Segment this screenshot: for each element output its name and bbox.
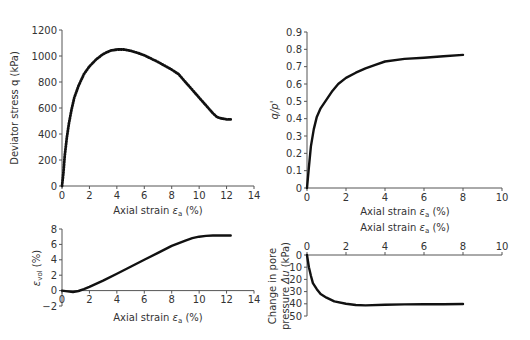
x-tick-label: 14 bbox=[248, 294, 261, 305]
x-tick-label: 8 bbox=[460, 241, 466, 252]
y-tick-label: 0.7 bbox=[286, 61, 302, 72]
y-axis-label-line1: Change in pore bbox=[267, 248, 278, 324]
y-tick-label: 0.2 bbox=[286, 148, 302, 159]
y-axis-label: q/p' bbox=[269, 101, 280, 120]
y-tick-label: 200 bbox=[38, 155, 57, 166]
x-tick-label: 2 bbox=[86, 190, 92, 201]
x-tick-label: 8 bbox=[169, 190, 175, 201]
axes: 02004006008001000120002468101214 bbox=[32, 25, 261, 202]
chart-deviator-stress: 02004006008001000120002468101214 Deviato… bbox=[9, 25, 260, 219]
x-tick-label: 8 bbox=[169, 294, 175, 305]
x-tick-label: 0 bbox=[59, 294, 65, 305]
figure-canvas: 02004006008001000120002468101214 Deviato… bbox=[0, 0, 530, 340]
y-tick-label: 400 bbox=[38, 129, 57, 140]
axes: 00.10.20.30.40.50.60.70.80.90246810 bbox=[286, 27, 508, 204]
x-axis-label: Axial strain εa (%) bbox=[360, 206, 450, 219]
data-series-line bbox=[62, 50, 231, 187]
x-tick-label: 14 bbox=[248, 190, 261, 201]
y-tick-label: −2 bbox=[42, 301, 57, 312]
x-tick-label: 4 bbox=[114, 190, 120, 201]
x-tick-label: 0 bbox=[304, 192, 310, 203]
x-tick-label: 0 bbox=[304, 241, 310, 252]
x-tick-label: 6 bbox=[421, 192, 427, 203]
x-tick-label: 0 bbox=[59, 190, 65, 201]
y-tick-label: 0 bbox=[296, 183, 302, 194]
y-tick-label: 20 bbox=[289, 274, 302, 285]
x-axis-label: Axial strain εa (%) bbox=[113, 205, 203, 218]
chart-stress-ratio: 00.10.20.30.40.50.60.70.80.90246810 q/p'… bbox=[269, 27, 508, 220]
y-tick-label: 0.9 bbox=[286, 27, 302, 38]
y-tick-label: 0.4 bbox=[286, 113, 302, 124]
y-tick-label: 0 bbox=[51, 181, 57, 192]
y-tick-label: 1200 bbox=[32, 25, 57, 36]
data-series-line bbox=[307, 55, 463, 188]
y-tick-label: 8 bbox=[51, 224, 57, 235]
x-tick-label: 10 bbox=[193, 294, 206, 305]
x-axis-label: Axial strain εa (%) bbox=[113, 312, 203, 325]
y-axis-label-line2: pressure Δu (kPa) bbox=[280, 242, 291, 330]
x-tick-label: 10 bbox=[193, 190, 206, 201]
x-tick-label: 10 bbox=[496, 192, 509, 203]
x-tick-label: 4 bbox=[382, 192, 388, 203]
chart-volumetric-strain: −20246802468101214 εvol (%) Axial strain… bbox=[31, 224, 260, 326]
x-tick-label: 10 bbox=[496, 241, 509, 252]
axes: −20246802468101214 bbox=[42, 224, 260, 312]
x-tick-label: 2 bbox=[86, 294, 92, 305]
y-axis-label: Deviator stress q (kPa) bbox=[9, 51, 20, 165]
x-tick-label: 6 bbox=[141, 294, 147, 305]
y-tick-label: 600 bbox=[38, 103, 57, 114]
x-tick-label: 12 bbox=[220, 190, 233, 201]
x-tick-label: 2 bbox=[343, 241, 349, 252]
y-tick-label: 6 bbox=[51, 239, 57, 250]
x-tick-label: 4 bbox=[382, 241, 388, 252]
data-series-line bbox=[62, 236, 231, 293]
y-tick-label: 10 bbox=[289, 262, 302, 273]
axes: 010203040500246810 bbox=[289, 241, 508, 322]
y-tick-label: 0.8 bbox=[286, 44, 302, 55]
y-tick-label: 0.1 bbox=[286, 165, 302, 176]
y-tick-label: 30 bbox=[289, 286, 302, 297]
y-tick-label: 4 bbox=[51, 254, 57, 265]
y-tick-label: 50 bbox=[289, 311, 302, 322]
y-tick-label: 2 bbox=[51, 270, 57, 281]
y-axis-label: εvol (%) bbox=[31, 250, 44, 286]
x-tick-label: 4 bbox=[114, 294, 120, 305]
y-tick-label: 0.6 bbox=[286, 79, 302, 90]
y-tick-label: 0 bbox=[51, 285, 57, 296]
x-tick-label: 6 bbox=[141, 190, 147, 201]
x-tick-label: 8 bbox=[460, 192, 466, 203]
x-tick-label: 6 bbox=[421, 241, 427, 252]
x-tick-label: 2 bbox=[343, 192, 349, 203]
y-tick-label: 1000 bbox=[32, 51, 57, 62]
data-series-line bbox=[307, 255, 463, 305]
y-tick-label: 0.3 bbox=[286, 131, 302, 142]
y-tick-label: 0.5 bbox=[286, 96, 302, 107]
y-tick-label: 40 bbox=[289, 298, 302, 309]
y-tick-label: 800 bbox=[38, 77, 57, 88]
y-tick-label: 0 bbox=[296, 250, 302, 261]
x-axis-label: Axial strain εa (%) bbox=[360, 222, 450, 235]
x-tick-label: 12 bbox=[220, 294, 233, 305]
chart-pore-pressure: 010203040500246810 Change in pore pressu… bbox=[267, 222, 508, 330]
